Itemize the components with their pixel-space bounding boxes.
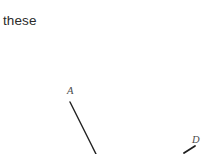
point-label-d: D [192,135,200,145]
line-segment-from-a [70,102,96,154]
line-segment-near-d [184,146,195,153]
geometry-figure [0,0,203,154]
point-label-a: A [67,86,73,96]
page-canvas: these A D [0,0,203,154]
